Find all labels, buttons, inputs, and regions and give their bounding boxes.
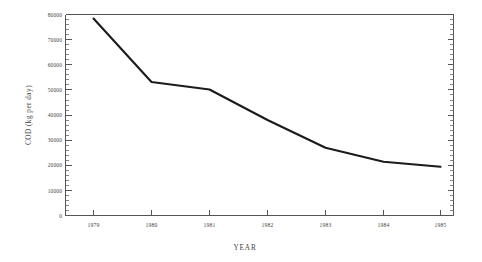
x-axis-title: YEAR [233, 244, 256, 252]
y-axis-title: COD (kg per day) [25, 85, 33, 145]
x-tick-labels: 1979 1980 1981 1982 1983 1984 1985 [88, 222, 447, 228]
x-tick-label: 1981 [204, 222, 216, 228]
y-tick-label: 0 [59, 213, 62, 219]
x-tick-label: 1979 [88, 222, 100, 228]
x-tick-label: 1980 [146, 222, 158, 228]
y-tick-labels: 80000 70000 60000 50000 40000 30000 2000… [48, 12, 62, 219]
y-tick-label: 20000 [48, 162, 62, 168]
y-axis-ticks-right [448, 15, 454, 211]
y-tick-label: 30000 [48, 137, 62, 143]
y-tick-label: 50000 [48, 87, 62, 93]
y-tick-label: 40000 [48, 112, 62, 118]
x-tick-label: 1985 [435, 222, 447, 228]
x-tick-label: 1982 [262, 222, 274, 228]
y-tick-label: 10000 [48, 188, 62, 194]
chart-figure: 80000 70000 60000 50000 40000 30000 2000… [0, 0, 482, 262]
x-axis-ticks [94, 210, 441, 216]
line-chart: 80000 70000 60000 50000 40000 30000 2000… [0, 0, 482, 262]
y-tick-label: 60000 [48, 62, 62, 68]
y-tick-label: 80000 [48, 12, 62, 18]
cod-data-line [94, 19, 441, 167]
x-tick-label: 1983 [320, 222, 332, 228]
y-tick-label: 70000 [48, 37, 62, 43]
x-tick-label: 1984 [378, 222, 390, 228]
